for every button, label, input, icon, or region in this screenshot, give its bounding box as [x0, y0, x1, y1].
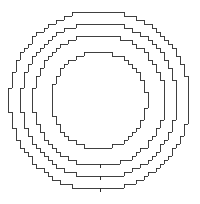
- concentric-rings-figure: [0, 0, 200, 204]
- figure-background: [0, 0, 200, 204]
- figure-canvas: [0, 0, 200, 204]
